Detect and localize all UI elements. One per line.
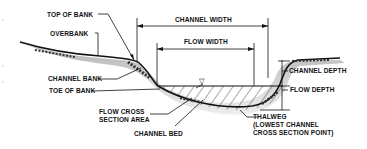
flow-width-arrow-left (157, 47, 163, 51)
label-channel-bank: CHANNEL BANK (48, 75, 102, 83)
toe-of-bank-leader (92, 89, 160, 91)
label-thalweg-3: CROSS SECTION POINT) (253, 129, 334, 137)
margin-speck (2, 65, 3, 66)
label-channel-bed: CHANNEL BED (134, 130, 183, 138)
flow-width-arrow-right (248, 47, 254, 51)
water-surface-symbol: ▽ (199, 78, 204, 86)
label-flow-width: FLOW WIDTH (184, 38, 228, 46)
margin-speck (2, 19, 3, 20)
channel-width-arrow-right (262, 24, 268, 28)
label-flow-depth: FLOW DEPTH (290, 86, 335, 94)
channel-cross-section-diagram: ▽ TOP OF BANK OVERBANK CHANNEL BANK TOE … (0, 0, 367, 149)
top-of-bank-leader (98, 14, 134, 60)
channel-width-arrow-left (137, 24, 143, 28)
label-toe-of-bank: TOE OF BANK (49, 87, 95, 95)
margin-speck (2, 81, 3, 82)
label-flow-cross-section-area-2: SECTION AREA (99, 116, 150, 124)
label-channel-depth: CHANNEL DEPTH (289, 67, 347, 75)
label-channel-width: CHANNEL WIDTH (175, 16, 232, 24)
label-overbank: OVERBANK (50, 30, 88, 38)
label-top-of-bank: TOP OF BANK (47, 11, 93, 19)
overbank-leader (95, 33, 98, 55)
